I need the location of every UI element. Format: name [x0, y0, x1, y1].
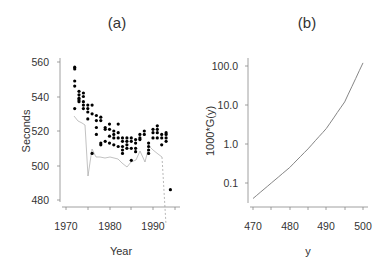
data-point — [130, 147, 133, 150]
data-point — [77, 90, 80, 93]
svg-text:540: 540 — [31, 91, 49, 103]
panel-b-curve — [253, 63, 363, 199]
data-point — [86, 117, 89, 120]
data-point — [160, 136, 163, 139]
data-point — [165, 140, 168, 143]
data-point — [73, 67, 76, 70]
data-point — [117, 145, 120, 148]
panel-a-y-tick-labels: 480 500 520 540 560 — [31, 56, 49, 206]
data-point — [130, 159, 133, 162]
panel-b-y-ticks — [245, 66, 248, 183]
data-point — [95, 126, 98, 129]
data-point — [160, 133, 163, 136]
svg-text:480: 480 — [31, 194, 49, 206]
panel-b-x-tick-labels: 470 480 490 500 — [244, 220, 372, 232]
panel-a-x-tick-labels: 1970 1980 1990 — [54, 220, 165, 232]
panel-a-y-ticks — [57, 62, 60, 200]
data-point — [108, 123, 111, 126]
data-point — [160, 143, 163, 146]
data-point — [104, 140, 107, 143]
data-point — [108, 128, 111, 131]
panel-b-y-label: 1000*G(y) — [204, 106, 216, 156]
panel-a: (a) 480 500 520 540 560 — [20, 14, 180, 257]
data-point — [125, 143, 128, 146]
panel-a-x-ticks — [66, 207, 175, 210]
data-point — [112, 143, 115, 146]
data-point — [82, 107, 85, 110]
data-point — [77, 93, 80, 96]
data-point — [117, 136, 120, 139]
data-point — [73, 85, 76, 88]
data-point — [147, 145, 150, 148]
svg-text:100.0: 100.0 — [212, 60, 238, 72]
data-point — [121, 136, 124, 139]
svg-text:500: 500 — [31, 160, 49, 172]
data-point — [77, 100, 80, 103]
data-point — [151, 131, 154, 134]
data-point — [117, 123, 120, 126]
svg-text:480: 480 — [281, 220, 299, 232]
data-point — [147, 148, 150, 151]
data-point — [91, 104, 94, 107]
data-point — [156, 128, 159, 131]
data-point — [86, 107, 89, 110]
data-point — [86, 104, 89, 107]
data-point — [134, 150, 137, 153]
data-point — [151, 128, 154, 131]
data-point — [95, 133, 98, 136]
data-point — [86, 110, 89, 113]
figure: (a) 480 500 520 540 560 — [0, 0, 388, 272]
data-point — [156, 131, 159, 134]
data-point — [147, 152, 150, 155]
data-point — [125, 140, 128, 143]
data-point — [121, 140, 124, 143]
data-point — [134, 142, 137, 145]
data-point — [112, 133, 115, 136]
data-point — [82, 95, 85, 98]
panel-b-x-label: y — [305, 245, 311, 257]
data-point — [82, 100, 85, 103]
data-point — [117, 131, 120, 134]
svg-text:500: 500 — [354, 220, 372, 232]
data-point — [112, 136, 115, 139]
svg-text:1970: 1970 — [54, 220, 78, 232]
data-point — [99, 119, 102, 122]
data-point — [165, 133, 168, 136]
data-point — [73, 107, 76, 110]
data-point — [121, 145, 124, 148]
svg-text:1980: 1980 — [98, 220, 122, 232]
data-point — [99, 116, 102, 119]
data-point — [125, 136, 128, 139]
data-point — [134, 138, 137, 141]
svg-text:1990: 1990 — [141, 220, 165, 232]
panel-b-x-ticks — [253, 207, 363, 210]
data-point — [91, 152, 94, 155]
data-point — [121, 148, 124, 151]
data-point — [95, 114, 98, 117]
panel-b-title: (b) — [298, 14, 316, 31]
data-point — [73, 79, 76, 82]
data-point — [151, 136, 154, 139]
data-point — [91, 112, 94, 115]
data-point — [169, 188, 172, 191]
data-point — [121, 152, 124, 155]
svg-text:0.1: 0.1 — [223, 177, 238, 189]
data-point — [156, 124, 159, 127]
data-point — [134, 147, 137, 150]
data-point — [147, 142, 150, 145]
data-point — [104, 128, 107, 131]
svg-text:490: 490 — [317, 220, 335, 232]
svg-text:10.0: 10.0 — [218, 99, 239, 111]
panel-a-y-label: Seconds — [20, 109, 32, 152]
data-point — [143, 133, 146, 136]
svg-text:1.0: 1.0 — [223, 138, 238, 150]
panel-a-title: (a) — [108, 14, 126, 31]
data-point — [143, 129, 146, 132]
panel-a-dashed-line — [162, 157, 166, 225]
data-point — [125, 147, 128, 150]
svg-text:470: 470 — [244, 220, 262, 232]
svg-text:560: 560 — [31, 56, 49, 68]
data-point — [138, 133, 141, 136]
data-point — [165, 136, 168, 139]
data-point — [99, 143, 102, 146]
